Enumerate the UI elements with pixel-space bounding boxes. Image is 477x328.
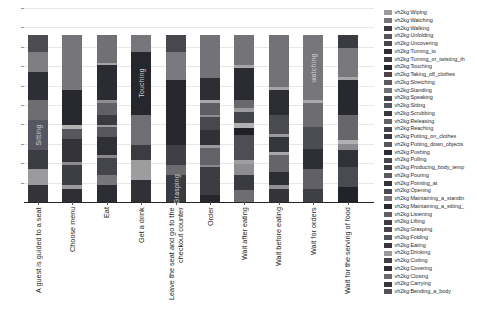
- bar-segment: [234, 175, 254, 190]
- bar-segment: [269, 172, 289, 185]
- bar-segment: [200, 130, 220, 145]
- bar-segment: [28, 100, 48, 120]
- bar-segment: [200, 167, 220, 195]
- bar-segment: [131, 180, 151, 202]
- bar-segment: [28, 150, 48, 168]
- legend-item: vh2kg:Maintaining_a_standin: [384, 195, 476, 203]
- legend-swatch: [384, 189, 392, 194]
- legend-label: vh2kg:Wiping: [395, 9, 427, 17]
- y-tick: [21, 144, 24, 145]
- x-axis-label: Wait after eating: [240, 207, 249, 326]
- bar-segment: [97, 115, 117, 125]
- legend-label: vh2kg:Taking_off_clothes: [395, 71, 455, 79]
- bar-segment: [166, 35, 186, 52]
- legend-item: vh2kg:Eating: [384, 242, 476, 250]
- bar: Sitting: [28, 35, 48, 202]
- bar-segment: [234, 100, 254, 108]
- x-axis-label: Wait before eating: [274, 207, 283, 326]
- legend-swatch: [384, 72, 392, 77]
- legend-label: vh2kg:Producing_body_temp: [395, 164, 465, 172]
- legend-swatch: [384, 80, 392, 85]
- legend-label: vh2kg:Putting_down_objects: [395, 141, 464, 149]
- legend-swatch: [384, 227, 392, 232]
- legend-item: vh2kg:Stretching: [384, 79, 476, 87]
- bar-segment: [338, 48, 358, 76]
- bar-segment: [97, 158, 117, 175]
- legend-swatch: [384, 282, 392, 287]
- bar-segment: [269, 35, 289, 87]
- gridline: [24, 27, 374, 28]
- bar-segment: [303, 103, 323, 126]
- legend: vh2kg:Wipingvh2kg:Watchingvh2kg:Walkingv…: [384, 9, 476, 296]
- legend-item: vh2kg:Opening: [384, 187, 476, 195]
- legend-label: vh2kg:Pouring: [395, 172, 429, 180]
- legend-swatch: [384, 243, 392, 248]
- x-tick: [279, 202, 280, 205]
- legend-item: vh2kg:Walking: [384, 25, 476, 33]
- bar: [234, 35, 254, 202]
- bar-inner-label: watching: [310, 53, 317, 82]
- legend-swatch: [384, 10, 392, 15]
- bar-segment: [62, 35, 82, 90]
- y-tick: [21, 86, 24, 87]
- legend-swatch: [384, 212, 392, 217]
- x-tick: [72, 202, 73, 205]
- bar-segment: [338, 150, 358, 167]
- legend-swatch: [384, 41, 392, 46]
- bar-segment: [28, 72, 48, 100]
- x-tick: [210, 202, 211, 205]
- legend-item: vh2kg:Closing: [384, 273, 476, 281]
- bar-segment: [131, 115, 151, 145]
- legend-label: vh2kg:Pushing: [395, 149, 430, 157]
- bar: [200, 35, 220, 202]
- x-tick: [176, 202, 177, 205]
- legend-item: vh2kg:Putting_down_objects: [384, 141, 476, 149]
- legend-label: vh2kg:Lifting: [395, 218, 425, 226]
- bar-segment: [28, 35, 48, 52]
- y-tick: [21, 105, 24, 106]
- bar-segment: [303, 169, 323, 189]
- legend-label: vh2kg:Uncovering: [395, 40, 438, 48]
- bar-segment: [62, 90, 82, 125]
- bar-segment: [131, 145, 151, 160]
- legend-label: vh2kg:Maintaining_a_standin: [395, 195, 465, 203]
- legend-item: vh2kg:Sitting: [384, 102, 476, 110]
- x-tick: [38, 202, 39, 205]
- bar: [97, 35, 117, 202]
- legend-item: vh2kg:Reaching: [384, 125, 476, 133]
- y-tick: [21, 8, 24, 9]
- legend-label: vh2kg:Drinking: [395, 249, 431, 257]
- bar-segment: [338, 80, 358, 115]
- x-axis-label: Wait for the serving of food: [343, 207, 352, 326]
- legend-label: vh2kg:Pulling: [395, 156, 427, 164]
- bar-segment: [28, 185, 48, 202]
- legend-swatch: [384, 274, 392, 279]
- legend-item: vh2kg:Scrubbing: [384, 110, 476, 118]
- bar-segment: [200, 78, 220, 100]
- bar-segment: [97, 137, 117, 155]
- x-tick: [348, 202, 349, 205]
- legend-item: vh2kg:Unfolding: [384, 32, 476, 40]
- x-tick: [107, 202, 108, 205]
- legend-label: vh2kg:Eating: [395, 242, 426, 250]
- legend-label: vh2kg:Unfolding: [395, 32, 434, 40]
- legend-item: vh2kg:Covering: [384, 265, 476, 273]
- legend-item: vh2kg:Turning_or_twisting_th: [384, 56, 476, 64]
- legend-label: vh2kg:Scrubbing: [395, 110, 435, 118]
- bar-segment: [166, 145, 186, 165]
- legend-item: vh2kg:Grasping: [384, 226, 476, 234]
- legend-item: vh2kg:Cutting: [384, 257, 476, 265]
- bar-segment: [131, 160, 151, 180]
- bar-segment: [200, 195, 220, 202]
- legend-label: vh2kg:Folding: [395, 234, 429, 242]
- legend-item: vh2kg:Folding: [384, 234, 476, 242]
- legend-label: vh2kg:Releasing: [395, 118, 435, 126]
- plot-area: SittingTouchingGraspingwatching: [24, 8, 374, 202]
- legend-label: vh2kg:Cutting: [395, 257, 428, 265]
- x-axis-label: Wait for orders: [309, 207, 318, 326]
- legend-swatch: [384, 127, 392, 132]
- bar-segment: [234, 128, 254, 135]
- legend-item: vh2kg:Watching: [384, 17, 476, 25]
- legend-swatch: [384, 258, 392, 263]
- legend-swatch: [384, 49, 392, 54]
